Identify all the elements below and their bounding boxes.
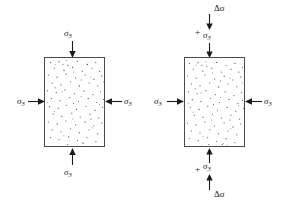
sigma-subscript: 3 [128, 100, 131, 107]
right-side-stress-label: σ3 [124, 97, 132, 108]
left-bottom-stress-label: σ3 [64, 168, 72, 179]
right-top-plus-sign: + [195, 28, 200, 37]
right-top-arrow-down-icon [205, 43, 214, 58]
right-panel-left-stress-label: σ3 [154, 97, 162, 108]
right-panel-left-arrow-right-icon [167, 97, 184, 106]
left-panel: σ3 [0, 0, 145, 215]
left-top-stress-label: σ3 [64, 29, 72, 40]
soil-texture [185, 58, 244, 146]
sigma-subscript: 3 [207, 34, 210, 41]
sigma-subscript: 3 [158, 100, 161, 107]
left-side-stress-label: σ3 [17, 97, 25, 108]
sigma-subscript: 3 [68, 171, 71, 178]
plus-glyph: + [195, 164, 200, 174]
left-top-arrow-down-icon [68, 41, 77, 58]
right-side-arrow-left-icon [105, 97, 122, 106]
right-bottom-delta-stress-label: Δσ [214, 190, 225, 199]
sigma-subscript: 3 [268, 100, 271, 107]
triaxial-stress-figure: σ3 [0, 0, 289, 215]
left-bottom-arrow-up-icon [68, 148, 77, 165]
right-top-delta-stress-label: Δσ [214, 4, 225, 13]
delta-sigma-glyph: Δσ [214, 3, 225, 13]
right-specimen-box [184, 57, 245, 147]
right-panel-right-stress-label: σ3 [264, 97, 272, 108]
right-panel-right-arrow-left-icon [245, 97, 262, 106]
sigma-subscript: 3 [21, 100, 24, 107]
left-side-arrow-right-icon [28, 97, 45, 106]
right-top-stress-label: σ3 [203, 31, 211, 42]
right-bottom-stress-label: σ3 [203, 162, 211, 173]
sigma-subscript: 3 [68, 32, 71, 39]
sigma-subscript: 3 [207, 165, 210, 172]
delta-sigma-glyph: Δσ [214, 189, 225, 199]
right-bottom-delta-arrow-up-icon [205, 174, 214, 190]
right-bottom-plus-sign: + [195, 165, 200, 174]
soil-texture [45, 58, 104, 146]
right-top-delta-arrow-down-icon [205, 14, 214, 30]
left-specimen-box [44, 57, 105, 147]
plus-glyph: + [195, 27, 200, 37]
right-panel: Δσ + σ3 [145, 0, 289, 215]
